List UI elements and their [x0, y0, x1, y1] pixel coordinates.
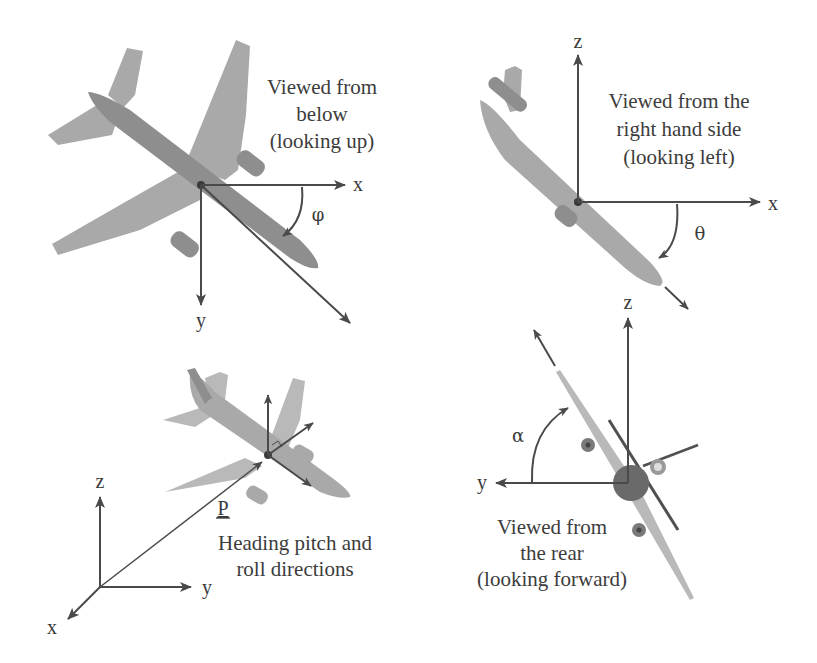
aircraft-3d-view-icon — [163, 368, 350, 507]
x-axis-label: x — [47, 616, 57, 638]
z-axis-label: z — [624, 291, 633, 313]
caption-line-1: Viewed from — [267, 75, 377, 99]
caption-line-2: right hand side — [617, 117, 742, 141]
y-axis-label: y — [202, 576, 212, 599]
phi-symbol: φ — [312, 204, 325, 225]
alpha-symbol: α — [512, 425, 524, 446]
phi-angle-arc — [283, 187, 302, 236]
caption-line-1: Heading pitch and — [218, 531, 372, 555]
position-vector-label: P — [217, 497, 228, 519]
caption-line-1: Viewed from the — [608, 89, 749, 113]
caption-line-2: the rear — [520, 541, 584, 565]
z-axis-label: z — [96, 470, 105, 492]
wing-axis-arrow — [534, 330, 555, 366]
panel-viewed-from-below: x y φ Viewed from below (looking up) — [48, 40, 377, 332]
caption-line-3: (looking forward) — [477, 567, 627, 591]
z-axis-label: z — [574, 30, 583, 52]
body-axis-arrow — [201, 185, 350, 323]
caption-line-3: (looking up) — [270, 129, 374, 153]
caption-line-3: (looking left) — [623, 145, 734, 169]
theta-symbol: θ — [695, 223, 706, 244]
panel-viewed-from-right-side: z x θ Viewed from the right hand side (l… — [480, 30, 778, 309]
aircraft-orientation-diagram: x y φ Viewed from below (looking up) z x… — [0, 0, 817, 663]
x-axis-label: x — [353, 173, 363, 195]
caption-line-2: below — [296, 102, 348, 126]
body-axis-arrow — [665, 287, 688, 309]
caption-line-2: roll directions — [236, 557, 353, 581]
x-axis-label: x — [768, 192, 778, 214]
theta-angle-arc — [659, 204, 677, 258]
panel-viewed-from-rear: z y α Viewed from the rear (looking forw… — [477, 291, 698, 600]
caption-line-1: Viewed from — [497, 515, 607, 539]
alpha-angle-arc — [532, 408, 568, 482]
panel-heading-pitch-roll: z y x P Heading pitch and roll direction… — [47, 368, 372, 638]
y-axis-label: y — [196, 309, 206, 332]
y-axis-label: y — [477, 471, 487, 494]
x-axis-arrow — [68, 587, 100, 619]
